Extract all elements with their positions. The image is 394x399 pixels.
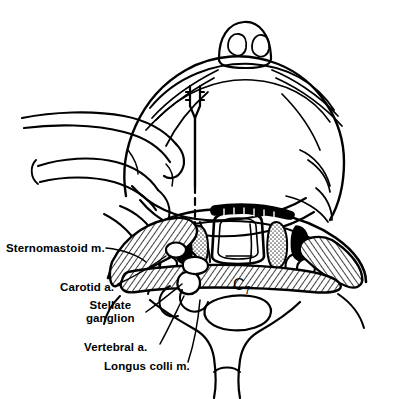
label-stellate-ganglion: Stellate ganglion <box>86 299 135 325</box>
stellate-ganglion-block-figure: Sternomastoid m. Carotid a. Stellate gan… <box>0 0 394 399</box>
label-carotid-artery: Carotid a. <box>60 281 114 293</box>
label-stellate-line2: ganglion <box>86 312 135 325</box>
label-stellate-line1: Stellate <box>86 299 135 312</box>
label-sternomastoid-muscle: Sternomastoid m. <box>6 242 105 254</box>
neck-folds-right <box>286 150 332 222</box>
facial-contours <box>146 70 342 150</box>
label-longus-colli-muscle: Longus colli m. <box>104 360 190 372</box>
label-vertebral-artery: Vertebral a. <box>84 341 147 353</box>
vertebral-level-letter: C <box>233 276 245 293</box>
label-vertebral-level-c7: C7 <box>233 276 251 296</box>
anatomical-line-drawing <box>0 0 394 399</box>
vertebral-level-number: 7 <box>245 284 251 296</box>
head-outline <box>124 56 344 220</box>
longus-colli-muscle <box>121 265 341 293</box>
carotid-artery <box>166 243 186 258</box>
nose <box>219 22 271 68</box>
